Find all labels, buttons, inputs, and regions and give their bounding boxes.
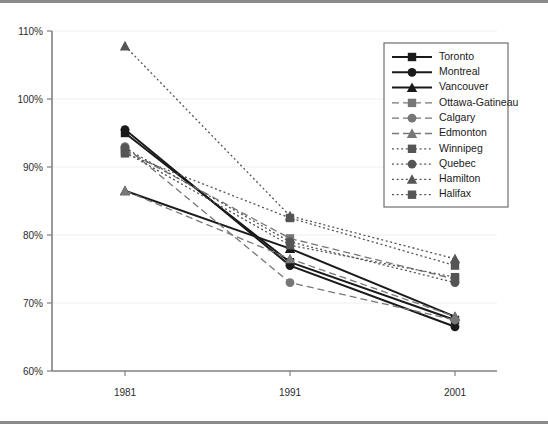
x-axis-tick-label: 2001 [444, 387, 467, 398]
legend-marker [408, 145, 416, 153]
legend-label: Ottawa-Gatineau [439, 96, 519, 108]
legend-label: Hamilton [439, 172, 481, 184]
legend-label: Vancouver [439, 80, 489, 92]
chart-frame: 110%100%90%80%70%60% 198119912001 Toront… [0, 0, 548, 424]
legend-label: Halifax [439, 187, 472, 199]
data-point-marker [120, 41, 130, 51]
data-point-marker [120, 186, 130, 196]
data-point-marker [286, 241, 294, 249]
chart-legend[interactable]: TorontoMontrealVancouverOttawa-GatineauC… [384, 43, 519, 207]
legend-label: Winnipeg [439, 142, 483, 154]
y-axis-tick-label: 60% [23, 366, 43, 377]
legend-label: Montreal [439, 65, 480, 77]
y-axis-tick-label: 100% [17, 94, 43, 105]
y-axis-tick-label: 80% [23, 230, 43, 241]
data-point-marker [121, 125, 130, 134]
legend-label: Calgary [439, 111, 476, 123]
legend-marker [408, 114, 417, 123]
chart-container: 110%100%90%80%70%60% 198119912001 Toront… [0, 3, 548, 424]
data-point-marker [451, 273, 459, 281]
legend-marker [408, 160, 417, 169]
legend-marker [408, 68, 417, 77]
data-point-marker [286, 278, 295, 287]
legend-label: Edmonton [439, 126, 487, 138]
legend-label: Toronto [439, 50, 474, 62]
x-axis-tick-label: 1981 [114, 387, 137, 398]
legend-marker [408, 53, 416, 61]
x-axis-tick-label: 1991 [279, 387, 302, 398]
y-axis-tick-label: 110% [18, 26, 43, 37]
legend-marker [408, 191, 416, 199]
legend-label: Quebec [439, 157, 476, 169]
x-axis-tick-labels: 198119912001 [114, 387, 467, 398]
y-axis-tick-label: 90% [23, 162, 43, 173]
legend-marker [408, 99, 416, 107]
data-point-marker [121, 148, 129, 156]
y-axis-tick-label: 70% [23, 298, 43, 309]
y-axis-tick-labels: 110%100%90%80%70%60% [17, 26, 43, 377]
line-chart: 110%100%90%80%70%60% 198119912001 Toront… [0, 3, 548, 424]
data-point-marker [450, 254, 460, 264]
